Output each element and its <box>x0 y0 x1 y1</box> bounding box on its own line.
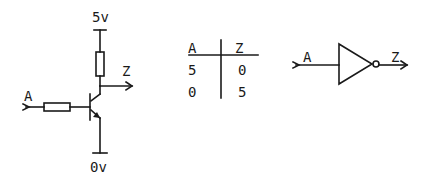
truth-table-cell: 0 <box>188 84 196 100</box>
truth-table: A Z 5 0 0 5 <box>188 40 258 100</box>
base-resistor <box>44 103 70 111</box>
supply-label: 5v <box>92 9 109 25</box>
gate-input-label: A <box>303 49 312 65</box>
not-gate-triangle-icon <box>339 44 372 84</box>
truth-table-cell: 0 <box>238 62 246 78</box>
inversion-bubble-icon <box>373 61 379 67</box>
truth-table-header-a: A <box>188 40 197 56</box>
gate-output-label: Z <box>391 49 399 65</box>
input-label: A <box>24 88 33 104</box>
collector-lead <box>91 94 100 101</box>
ground-label: 0v <box>90 159 107 175</box>
truth-table-header-z: Z <box>235 40 243 56</box>
not-gate-symbol: A Z <box>293 44 407 84</box>
inverter-diagram: 5v Z 0v A A Z 5 0 0 <box>0 0 430 186</box>
collector-resistor <box>96 52 104 76</box>
output-label: Z <box>122 63 130 79</box>
transistor-inverter-circuit: 5v Z 0v A <box>23 9 132 175</box>
truth-table-cell: 5 <box>188 62 196 78</box>
truth-table-cell: 5 <box>238 84 246 100</box>
